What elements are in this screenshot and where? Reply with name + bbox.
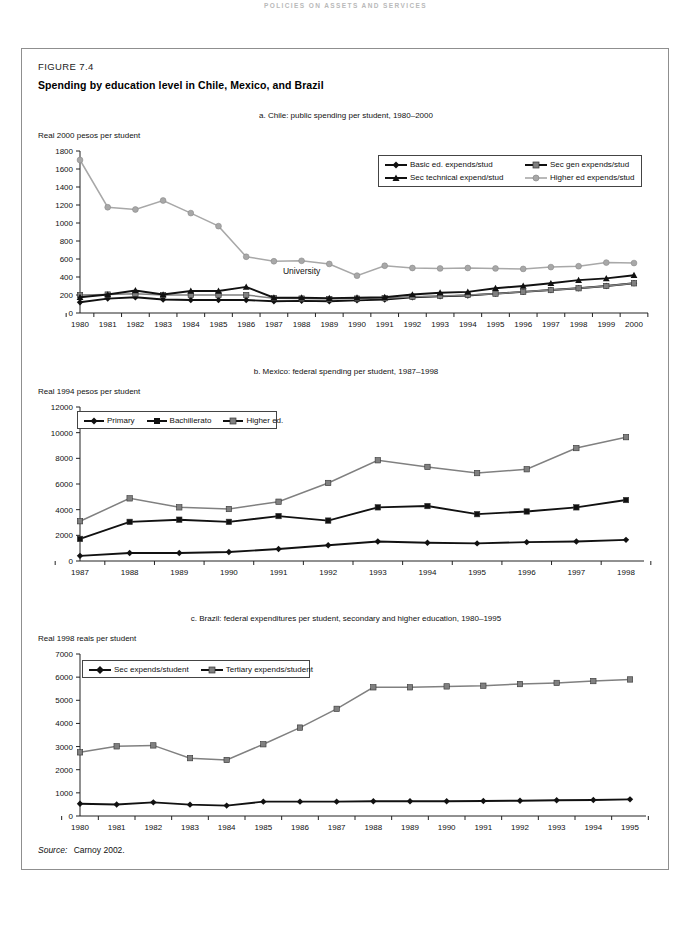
svg-text:1982: 1982 xyxy=(127,320,145,329)
legend-item-mexico-1: Bachillerato xyxy=(147,416,212,426)
svg-text:1400: 1400 xyxy=(55,183,73,192)
legend-marker-square-icon xyxy=(147,416,167,426)
chart-svg-mexico: 0200040006000800010000120001987198819891… xyxy=(22,401,662,601)
plot-area-brazil: 0100020003000400050006000700019801981198… xyxy=(22,648,662,853)
svg-text:1986: 1986 xyxy=(237,320,255,329)
svg-text:1984: 1984 xyxy=(182,320,200,329)
svg-text:1992: 1992 xyxy=(319,568,337,577)
svg-text:1998: 1998 xyxy=(617,568,635,577)
chart-title-brazil: c. Brazil: federal expenditures per stud… xyxy=(22,614,670,623)
svg-text:1992: 1992 xyxy=(511,823,529,832)
svg-text:1990: 1990 xyxy=(438,823,456,832)
svg-text:2000: 2000 xyxy=(55,531,73,540)
legend-label-mexico-2: Higher ed. xyxy=(246,416,283,425)
svg-text:0: 0 xyxy=(69,309,74,318)
chart-panel-brazil: c. Brazil: federal expenditures per stud… xyxy=(22,614,670,859)
legend-label-brazil-1: Tertiary expends/student xyxy=(226,665,313,674)
running-head: POLICIES ON ASSETS AND SERVICES xyxy=(0,2,691,9)
svg-text:1988: 1988 xyxy=(293,320,311,329)
svg-text:0: 0 xyxy=(69,812,74,821)
svg-text:2000: 2000 xyxy=(55,766,73,775)
svg-text:0: 0 xyxy=(69,557,74,566)
svg-text:1998: 1998 xyxy=(570,320,588,329)
source-note: Source: Carnoy 2002. xyxy=(38,845,125,855)
svg-text:1800: 1800 xyxy=(55,147,73,156)
series-brazil-1 xyxy=(77,677,632,763)
svg-text:1980: 1980 xyxy=(71,823,89,832)
legend-label-mexico-1: Bachillerato xyxy=(170,416,212,425)
legend-label-chile-1: Sec gen expends/stud xyxy=(550,160,629,169)
legend-label-chile-2: Sec technical expend/stud xyxy=(410,173,503,182)
svg-text:1995: 1995 xyxy=(487,320,505,329)
svg-text:1983: 1983 xyxy=(181,823,199,832)
svg-text:1990: 1990 xyxy=(220,568,238,577)
svg-text:1986: 1986 xyxy=(291,823,309,832)
svg-text:800: 800 xyxy=(60,237,74,246)
chart-panel-mexico: b. Mexico: federal spending per student,… xyxy=(22,367,670,607)
svg-text:1981: 1981 xyxy=(108,823,126,832)
svg-text:1983: 1983 xyxy=(154,320,172,329)
svg-text:1993: 1993 xyxy=(548,823,566,832)
svg-text:1996: 1996 xyxy=(518,568,536,577)
legend-marker-square-icon xyxy=(525,160,547,170)
svg-text:1000: 1000 xyxy=(55,789,73,798)
legend-marker-square-gray-icon xyxy=(223,416,243,426)
legend-item-brazil-1: Tertiary expends/student xyxy=(201,665,313,675)
legend-marker-square-icon xyxy=(201,665,223,675)
svg-text:1993: 1993 xyxy=(369,568,387,577)
svg-text:1982: 1982 xyxy=(144,823,162,832)
svg-text:1989: 1989 xyxy=(320,320,338,329)
y-axis-caption-brazil: Real 1998 reais per student xyxy=(38,634,136,643)
svg-text:1981: 1981 xyxy=(99,320,117,329)
svg-text:6000: 6000 xyxy=(55,673,73,682)
svg-text:2000: 2000 xyxy=(625,320,643,329)
svg-text:1991: 1991 xyxy=(474,823,492,832)
legend-item-chile-3: Higher ed expends/stud xyxy=(525,173,635,183)
legend-marker-diamond-icon xyxy=(84,416,104,426)
y-axis-caption-chile: Real 2000 pesos per student xyxy=(38,131,140,140)
legend-mexico: Primary Bachillerato Higher ed. xyxy=(77,411,277,429)
svg-text:3000: 3000 xyxy=(55,743,73,752)
svg-text:1995: 1995 xyxy=(621,823,639,832)
y-axis-caption-mexico: Real 1994 pesos per student xyxy=(38,387,140,396)
svg-text:1000: 1000 xyxy=(55,219,73,228)
legend-item-chile-0: Basic ed. expends/stud xyxy=(385,160,513,170)
svg-text:1994: 1994 xyxy=(459,320,477,329)
legend-chile: Basic ed. expends/stud Sec gen expends/s… xyxy=(378,155,642,187)
svg-text:8000: 8000 xyxy=(55,454,73,463)
svg-text:10000: 10000 xyxy=(51,429,74,438)
svg-text:12000: 12000 xyxy=(51,403,74,412)
svg-text:7000: 7000 xyxy=(55,650,73,659)
svg-text:400: 400 xyxy=(60,273,74,282)
legend-label-chile-0: Basic ed. expends/stud xyxy=(410,160,493,169)
series-brazil-0 xyxy=(77,796,633,809)
chart-title-mexico: b. Mexico: federal spending per student,… xyxy=(22,367,670,376)
svg-text:1600: 1600 xyxy=(55,165,73,174)
svg-text:600: 600 xyxy=(60,255,74,264)
legend-marker-diamond-icon xyxy=(385,160,407,170)
legend-marker-diamond-icon xyxy=(89,665,111,675)
svg-text:4000: 4000 xyxy=(55,719,73,728)
svg-text:1985: 1985 xyxy=(254,823,272,832)
svg-text:1988: 1988 xyxy=(121,568,139,577)
chart-panel-chile: a. Chile: public spending per student, 1… xyxy=(22,111,670,356)
chart-title-chile: a. Chile: public spending per student, 1… xyxy=(22,111,670,120)
legend-item-mexico-0: Primary xyxy=(84,416,135,426)
chart-svg-brazil: 0100020003000400050006000700019801981198… xyxy=(22,648,662,853)
svg-text:1200: 1200 xyxy=(55,201,73,210)
svg-text:1985: 1985 xyxy=(210,320,228,329)
svg-text:1996: 1996 xyxy=(514,320,532,329)
figure-label: FIGURE 7.4 xyxy=(38,61,94,72)
svg-text:1999: 1999 xyxy=(597,320,615,329)
svg-text:1980: 1980 xyxy=(71,320,89,329)
svg-text:1997: 1997 xyxy=(567,568,585,577)
svg-text:University: University xyxy=(283,266,321,276)
figure-container: FIGURE 7.4 Spending by education level i… xyxy=(21,48,669,870)
source-text: Carnoy 2002. xyxy=(74,845,125,855)
figure-title: Spending by education level in Chile, Me… xyxy=(38,79,324,91)
svg-text:1992: 1992 xyxy=(404,320,422,329)
svg-text:1989: 1989 xyxy=(401,823,419,832)
svg-text:1989: 1989 xyxy=(170,568,188,577)
svg-text:1984: 1984 xyxy=(218,823,236,832)
legend-marker-triangle-icon xyxy=(385,173,407,183)
